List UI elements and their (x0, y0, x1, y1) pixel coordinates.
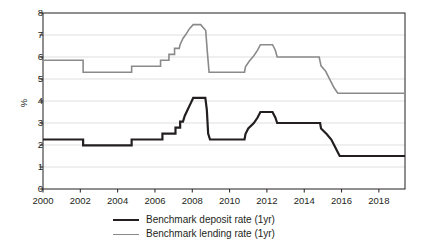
legend-swatch-deposit-line (113, 219, 139, 221)
legend-item-lending[interactable]: Benchmark lending rate (1yr) (113, 227, 363, 241)
chart-container: % 012345678 2000200220042006200820102012… (0, 0, 423, 252)
gridlines (43, 35, 405, 167)
legend-swatch-lending-line (113, 234, 139, 235)
legend-label-deposit: Benchmark deposit rate (1yr) (146, 214, 275, 226)
series-line-deposit-rate (43, 98, 405, 156)
legend-item-deposit[interactable]: Benchmark deposit rate (1yr) (113, 213, 363, 227)
data-series-layer (43, 25, 405, 156)
axis-tick-marks (40, 13, 379, 193)
legend-label-lending: Benchmark lending rate (1yr) (146, 228, 275, 240)
chart-legend: Benchmark deposit rate (1yr) Benchmark l… (113, 213, 363, 241)
